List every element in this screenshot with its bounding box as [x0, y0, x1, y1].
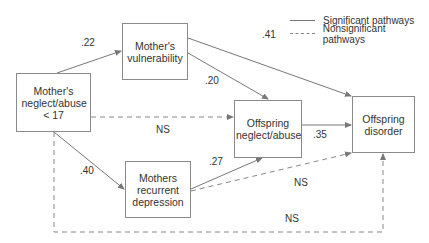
edge-depression-to-offspring-neglect: [191, 158, 262, 189]
node-mothers-recurrent-depression: Mothers recurrent depression: [125, 161, 191, 218]
solid-line-icon: [290, 20, 315, 21]
label-vulnerability-to-disorder: .41: [262, 29, 276, 40]
label-depression-to-disorder: NS: [294, 177, 308, 188]
node-offspring-neglect-abuse: Offspring neglect/abuse: [234, 100, 302, 158]
edge-vulnerability-to-offspring-neglect: [188, 53, 268, 99]
node-mother-vulnerability: Mother's vulnerability: [122, 23, 188, 80]
dashed-line-icon: [290, 33, 315, 34]
edge-neglect-to-vulnerability: [57, 51, 121, 73]
label-depression-to-offspring-neglect: .27: [209, 156, 223, 167]
edge-neglect-to-depression: [54, 132, 124, 189]
label-neglect-to-depression: .40: [80, 165, 94, 176]
label-neglect-to-vulnerability: .22: [81, 37, 95, 48]
node-label: Mother's neglect/abuse < 17: [22, 85, 86, 121]
legend-label-nonsignificant: Nonsignificant pathways: [323, 23, 429, 45]
legend: Significant pathways Nonsignificant path…: [290, 14, 429, 40]
label-neglect-to-offspring-neglect: NS: [156, 124, 170, 135]
node-mother-neglect-abuse: Mother's neglect/abuse < 17: [16, 73, 91, 132]
label-neglect-to-disorder: NS: [285, 213, 299, 224]
label-vulnerability-to-offspring-neglect: .20: [205, 75, 219, 86]
node-label: Offspring disorder: [359, 113, 409, 137]
label-offspring-neglect-to-disorder: .35: [313, 129, 327, 140]
node-offspring-disorder: Offspring disorder: [352, 96, 415, 153]
node-label: Mother's vulnerability: [125, 40, 185, 64]
node-label: Mothers recurrent depression: [132, 172, 184, 208]
edge-neglect-to-disorder: [54, 132, 383, 232]
legend-row-nonsignificant: Nonsignificant pathways: [290, 27, 429, 40]
node-label: Offspring neglect/abuse: [236, 117, 300, 141]
